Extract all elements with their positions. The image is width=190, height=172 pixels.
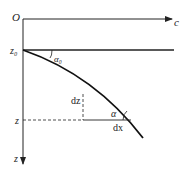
dx-label: dx: [113, 122, 123, 133]
alpha0-arc: [50, 50, 52, 58]
dz-label: dz: [71, 95, 81, 106]
origin-label: O: [12, 11, 20, 23]
z-label: z: [14, 115, 19, 126]
alpha0-label: α₀: [54, 54, 62, 64]
x-axis-label: c: [174, 16, 179, 28]
z0-label: z₀: [9, 45, 18, 56]
y-axis-label: z: [13, 153, 18, 164]
trajectory-diagram: O c z₀ α₀ dz α z dx z: [0, 0, 190, 172]
alpha-label: α: [111, 108, 117, 119]
